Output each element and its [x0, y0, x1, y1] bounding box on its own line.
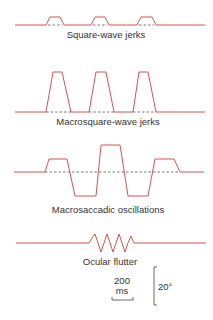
- amplitude-scale-value: 20°: [158, 281, 173, 292]
- panel-ocular-flutter: Ocular flutter: [16, 234, 206, 267]
- square-wave-trace: [15, 17, 205, 25]
- label-macrosquare-wave-jerks: Macrosquare-wave jerks: [56, 116, 160, 127]
- amplitude-scale-line: [154, 267, 157, 305]
- time-scale-unit: ms: [116, 285, 129, 296]
- panel-square-wave-jerks: Square-wave jerks: [15, 17, 205, 40]
- eye-movement-diagram: Square-wave jerks Macrosquare-wave jerks…: [0, 0, 213, 320]
- label-macrosaccadic-oscillations: Macrosaccadic oscillations: [52, 204, 165, 215]
- label-square-wave-jerks: Square-wave jerks: [67, 29, 146, 40]
- macrosaccadic-trace: [14, 145, 204, 196]
- macrosquare-wave-trace: [15, 72, 205, 112]
- amplitude-scale-bar: 20°: [154, 267, 173, 305]
- label-ocular-flutter: Ocular flutter: [83, 256, 137, 267]
- panel-macrosaccadic-oscillations: Macrosaccadic oscillations: [14, 145, 204, 215]
- ocular-flutter-trace: [16, 234, 206, 252]
- panel-macrosquare-wave-jerks: Macrosquare-wave jerks: [15, 72, 205, 127]
- time-scale-line: [112, 297, 133, 300]
- time-scale-bar: 200 ms: [112, 275, 133, 300]
